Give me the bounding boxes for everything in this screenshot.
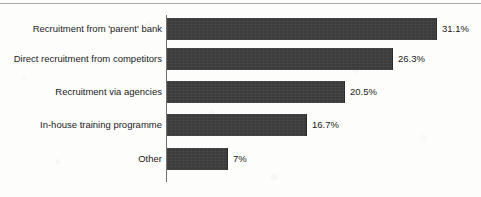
bar-chart-figure: Recruitment from 'parent' bank 31.1% Dir… (0, 0, 481, 197)
bar-rect (167, 48, 393, 70)
bar-rect (167, 114, 307, 136)
bar-rect (167, 81, 345, 103)
bar-value-label: 16.7% (312, 114, 339, 136)
bar-value-label: 31.1% (442, 18, 469, 40)
bar-category-label: Recruitment via agencies (2, 81, 162, 103)
bar-value-label: 7% (233, 148, 247, 170)
bar-category-label: In-house training programme (2, 114, 162, 136)
top-cut-rule (0, 3, 481, 4)
bar-category-label: Direct recruitment from competitors (2, 48, 162, 70)
bar-category-label: Recruitment from 'parent' bank (2, 18, 162, 40)
bar-value-label: 26.3% (398, 48, 425, 70)
bar-rect (167, 18, 437, 40)
top-cut-text (22, 0, 92, 3)
bar-value-label: 20.5% (350, 81, 377, 103)
bar-category-label: Other (2, 148, 162, 170)
bar-rect (167, 148, 228, 170)
